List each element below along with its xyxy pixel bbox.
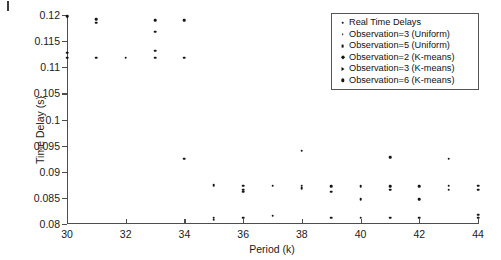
data-point	[389, 188, 392, 191]
y-tick	[62, 146, 67, 147]
legend-marker-glyph	[341, 44, 344, 47]
legend-marker-glyph	[342, 33, 344, 35]
y-tick	[62, 224, 67, 225]
data-point	[124, 57, 127, 60]
x-tick-label: 38	[296, 229, 308, 240]
data-point	[271, 214, 274, 217]
x-tick	[184, 219, 185, 224]
y-tick	[62, 93, 67, 94]
data-point	[154, 19, 157, 22]
data-point	[95, 22, 98, 25]
x-tick-label: 36	[237, 229, 249, 240]
data-point	[418, 198, 421, 201]
data-point	[242, 185, 245, 188]
data-point	[301, 187, 304, 190]
data-point	[154, 57, 157, 60]
y-tick	[62, 41, 67, 42]
legend-marker-glyph	[341, 55, 345, 59]
legend-item[interactable]: Observation=5 (Uniform)	[336, 40, 474, 52]
y-tick-label: 0.095	[34, 140, 60, 151]
x-tick	[243, 219, 244, 224]
legend-item-label: Observation=6 (K-means)	[349, 75, 454, 87]
legend-item-label: Observation=2 (K-means)	[349, 52, 454, 64]
data-point	[183, 157, 186, 160]
legend-item-label: Observation=3 (K-means)	[349, 63, 454, 75]
data-point	[359, 216, 362, 219]
legend-item-label: Real Time Delays	[349, 17, 421, 29]
legend-item[interactable]: Observation=3 (Uniform)	[336, 29, 474, 41]
legend-marker-icon	[336, 40, 349, 52]
legend-item-label: Observation=3 (Uniform)	[349, 29, 450, 41]
legend-marker-glyph	[341, 67, 344, 71]
data-point	[95, 57, 98, 60]
chart-page: Time Delay (s) Period (k) 0.080.0850.090…	[0, 0, 501, 260]
data-point	[477, 188, 480, 191]
x-tick-label: 32	[120, 229, 132, 240]
x-tick	[302, 219, 303, 224]
data-point	[447, 185, 450, 188]
y-tick-label: 0.1	[45, 114, 60, 125]
x-tick-label: 44	[472, 229, 484, 240]
x-tick-label: 30	[61, 229, 73, 240]
data-point	[301, 150, 304, 153]
y-axis-line	[67, 15, 68, 224]
x-axis-title: Period (k)	[249, 243, 295, 255]
legend-item[interactable]: Observation=2 (K-means)	[336, 52, 474, 64]
legend-item[interactable]: Observation=6 (K-means)	[336, 75, 474, 87]
data-point	[242, 190, 245, 193]
x-tick-label: 34	[179, 229, 191, 240]
y-tick	[62, 120, 67, 121]
legend-marker-glyph	[341, 21, 344, 24]
data-point	[330, 190, 333, 193]
data-point	[389, 216, 392, 219]
x-axis-line	[67, 223, 478, 224]
data-point	[447, 188, 450, 191]
data-point	[154, 30, 157, 33]
data-point	[389, 156, 392, 159]
y-tick-label: 0.085	[34, 193, 60, 204]
x-tick	[361, 219, 362, 224]
data-point	[154, 49, 157, 52]
legend-marker-icon	[336, 17, 349, 29]
data-point	[183, 19, 186, 22]
legend-item[interactable]: Observation=3 (K-means)	[336, 63, 474, 75]
y-tick	[62, 67, 67, 68]
y-tick-label: 0.09	[40, 167, 60, 178]
y-tick-label: 0.115	[35, 36, 61, 47]
data-point	[447, 157, 450, 160]
x-tick	[126, 219, 127, 224]
data-point	[66, 57, 69, 60]
data-point	[66, 51, 69, 54]
x-tick	[419, 219, 420, 224]
legend-marker-icon	[336, 75, 349, 87]
x-tick-label: 40	[355, 229, 367, 240]
data-point	[183, 57, 186, 60]
data-point	[359, 185, 362, 188]
data-point	[330, 216, 333, 219]
y-axis-title: Time Delay (s)	[34, 96, 46, 164]
corner-artifact	[7, 1, 9, 11]
y-tick	[62, 198, 67, 199]
y-tick	[62, 172, 67, 173]
legend-marker-icon	[336, 29, 349, 41]
legend-marker-icon	[336, 52, 349, 64]
data-point	[418, 216, 421, 219]
data-point	[66, 15, 69, 18]
data-point	[212, 219, 215, 222]
data-point	[477, 185, 480, 188]
y-tick-label: 0.105	[34, 88, 60, 99]
data-point	[477, 216, 480, 219]
legend-item[interactable]: Real Time Delays	[336, 17, 474, 29]
data-point	[271, 185, 274, 188]
legend-marker-glyph	[341, 79, 344, 82]
legend-marker-icon	[336, 63, 349, 75]
y-tick-label: 0.12	[40, 10, 60, 21]
x-tick	[67, 219, 68, 224]
data-point	[212, 184, 215, 187]
data-point	[359, 198, 362, 201]
data-point	[330, 185, 333, 188]
legend-item-label: Observation=5 (Uniform)	[349, 40, 450, 52]
data-point	[95, 18, 98, 21]
data-point	[418, 185, 421, 188]
y-tick-label: 0.11	[40, 62, 60, 73]
